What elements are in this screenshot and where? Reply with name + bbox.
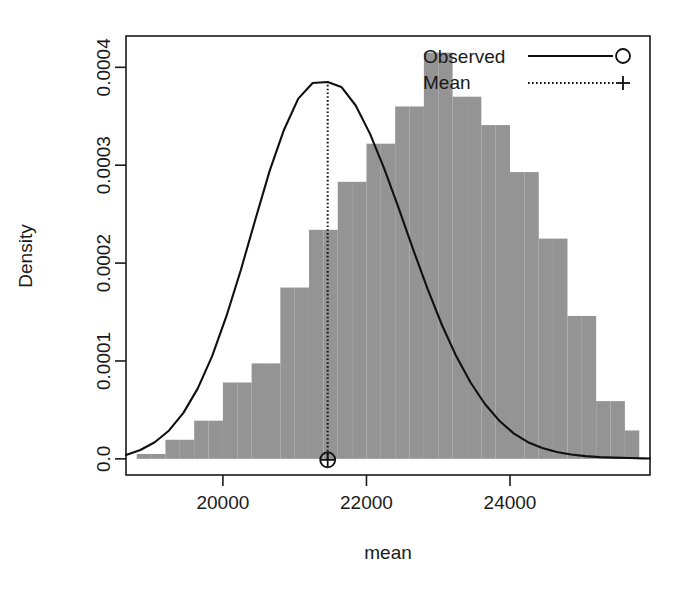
histogram-bar [209,421,223,459]
histogram-bar [237,383,251,459]
legend: Observed Mean [423,46,630,93]
density-histogram-figure: 0.00.00010.00020.00030.0004 200002200024… [0,0,686,597]
histogram-bar [395,106,409,458]
y-tick-label: 0.0004 [94,38,115,97]
histogram-bar [252,363,266,458]
histogram-bar [180,440,194,459]
y-axis-ticks: 0.00.00010.00020.00030.0004 [94,38,127,472]
histogram-bar [223,383,237,459]
x-tick-label: 22000 [340,492,393,513]
histogram-bar [194,421,208,459]
histogram-bar [338,182,352,459]
plot-svg: 0.00.00010.00020.00030.0004 200002200024… [0,0,686,597]
histogram-bar [582,316,596,459]
histogram-bar [524,172,538,459]
mean-marker [320,452,335,467]
x-axis-ticks: 200002200024000 [196,475,536,513]
y-tick-label: 0.0002 [94,234,115,292]
histogram-bar [352,182,366,459]
histogram-bar [438,53,452,459]
histogram-bars [137,53,639,459]
histogram-bar [625,430,639,458]
legend-label-observed: Observed [423,46,505,67]
histogram-bar [567,316,581,459]
legend-label-mean: Mean [423,72,471,93]
y-tick-label: 0.0001 [94,332,115,390]
legend-marker-circle-icon [616,49,630,63]
histogram-bar [323,230,337,459]
histogram-bar [553,239,567,459]
histogram-bar [165,440,179,459]
y-tick-label: 0.0 [94,446,115,472]
histogram-bar [467,97,481,459]
histogram-bar [611,401,625,459]
histogram-bar [151,454,165,459]
histogram-bar [410,106,424,458]
histogram-bar [496,125,510,459]
histogram-bar [453,97,467,459]
histogram-bar [280,288,294,459]
y-axis-label: Density [15,224,36,288]
histogram-bar [539,239,553,459]
histogram-bar [295,288,309,459]
histogram-bar [309,230,323,459]
histogram-bar [266,363,280,458]
x-tick-label: 20000 [196,492,249,513]
histogram-bar [424,53,438,459]
legend-marker-plus-icon [616,76,630,90]
x-tick-label: 24000 [484,492,537,513]
y-tick-label: 0.0003 [94,136,115,194]
histogram-bar [510,172,524,459]
x-axis-label: mean [364,542,412,563]
histogram-bar [366,144,380,459]
histogram-bar [137,454,151,459]
histogram-bar [596,401,610,459]
